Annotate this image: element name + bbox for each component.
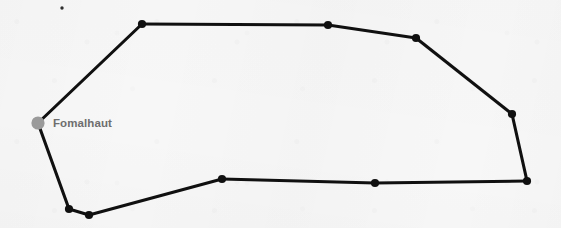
star-eta-psa[interactable]: [60, 6, 63, 9]
constellation-chart: Fomalhaut: [0, 0, 561, 228]
star-theta-psa[interactable]: [138, 20, 146, 28]
star-upsilon-psa[interactable]: [523, 177, 531, 185]
star-beta-psa[interactable]: [218, 175, 226, 183]
constellation-line-delta-psa-to-beta-psa: [222, 179, 375, 183]
fomalhaut-label: Fomalhaut: [53, 117, 112, 129]
star-gamma-psa[interactable]: [85, 211, 93, 219]
constellation-line-fomalhaut-to-theta-psa: [38, 24, 142, 123]
star-epsilon-psa[interactable]: [65, 205, 73, 213]
star-fomalhaut[interactable]: [31, 116, 44, 129]
star-mu-psa[interactable]: [412, 34, 420, 42]
constellation-line-epsilon-psa-to-fomalhaut: [38, 123, 69, 209]
star-layer: [31, 6, 531, 219]
constellation-line-mu-psa-to-tau-psa: [416, 38, 512, 114]
constellation-line-iota-psa-to-mu-psa: [328, 25, 416, 38]
constellation-figure: [0, 0, 561, 228]
constellation-line-upsilon-psa-to-delta-psa: [375, 181, 527, 183]
star-iota-psa[interactable]: [324, 21, 332, 29]
constellation-line-beta-psa-to-gamma-psa: [89, 179, 222, 215]
star-delta-psa[interactable]: [371, 179, 379, 187]
star-tau-psa[interactable]: [508, 110, 516, 118]
constellation-line-theta-psa-to-iota-psa: [142, 24, 328, 25]
constellation-line-tau-psa-to-upsilon-psa: [512, 114, 527, 181]
